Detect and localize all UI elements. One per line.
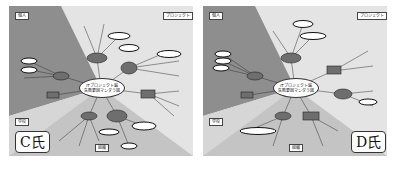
person-label-c: C氏 bbox=[15, 131, 50, 153]
person-label-d: D氏 bbox=[351, 131, 386, 153]
center-node-line2: 失敗要因マンダラ図 bbox=[84, 88, 120, 93]
zone-label-organization: 組織 bbox=[95, 144, 109, 152]
zone-label-project: プロジェクト bbox=[163, 12, 193, 20]
zone-label-school: 学校 bbox=[15, 118, 29, 126]
zone-label-individual: 個人 bbox=[15, 12, 29, 20]
zone-label-individual: 個人 bbox=[209, 12, 223, 20]
center-node-line2: 失敗要因マンダラ図 bbox=[278, 88, 314, 93]
center-node: ITプロジェクト編 失敗要因マンダラ図 bbox=[79, 78, 125, 98]
center-node: ITプロジェクト編 失敗要因マンダラ図 bbox=[273, 78, 319, 98]
zone-label-organization: 組織 bbox=[289, 144, 303, 152]
zone-label-project: プロジェクト bbox=[357, 12, 387, 20]
mandala-panel-d: 個人 プロジェクト 学校 組織 ITプロジェクト編 失敗要因マンダラ図 D氏 bbox=[203, 6, 387, 156]
mandala-panel-c: 個人 プロジェクト 学校 組織 ITプロジェクト編 失敗要因マンダラ図 C氏 bbox=[9, 6, 193, 156]
zone-label-school: 学校 bbox=[209, 118, 223, 126]
